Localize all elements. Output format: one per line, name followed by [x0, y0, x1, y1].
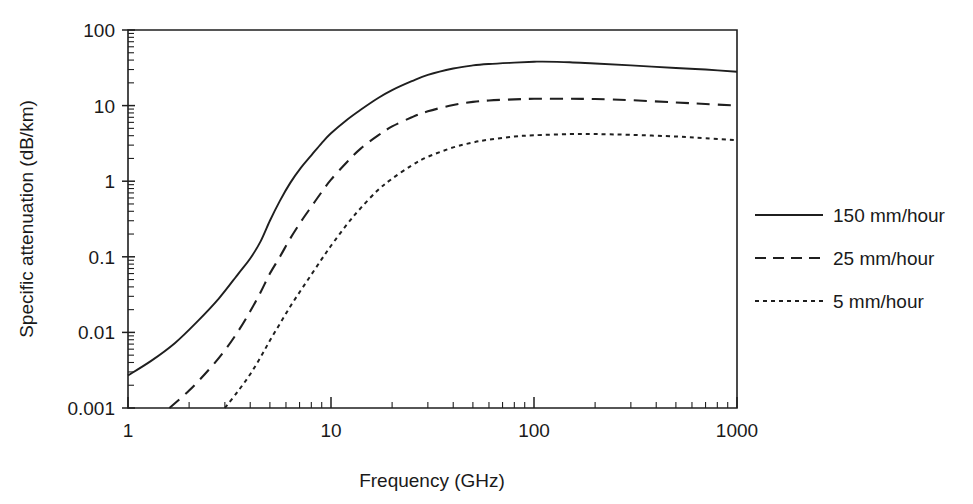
- axis-frame: [128, 30, 737, 408]
- chart-legend: 150 mm/hour25 mm/hour5 mm/hour: [755, 205, 946, 312]
- series-line-solid: [128, 62, 737, 376]
- data-curves: [128, 62, 737, 408]
- y-tick-label: 0.001: [67, 398, 115, 419]
- y-tick-label: 0.01: [78, 322, 115, 343]
- x-tick-label: 1: [123, 420, 134, 441]
- x-axis-title: Frequency (GHz): [359, 470, 505, 491]
- y-axis-title: Specific attenuation (dB/km): [16, 100, 37, 338]
- y-tick-label: 100: [83, 20, 115, 41]
- x-tick-label: 1000: [716, 420, 758, 441]
- y-tick-label: 0.1: [89, 247, 115, 268]
- y-tick-label: 1: [104, 171, 115, 192]
- figure-container: 1101001000 1001010.10.010.001 150 mm/hou…: [0, 0, 973, 504]
- legend-label: 25 mm/hour: [833, 248, 935, 269]
- attenuation-chart: 1101001000 1001010.10.010.001 150 mm/hou…: [0, 0, 973, 504]
- x-tick-labels: 1101001000: [123, 420, 758, 441]
- y-tick-label: 10: [94, 96, 115, 117]
- plot-axes: [128, 30, 737, 408]
- y-tick-labels: 1001010.10.010.001: [67, 20, 115, 419]
- legend-label: 150 mm/hour: [833, 205, 946, 226]
- x-tick-label: 10: [320, 420, 341, 441]
- axis-ticks: [122, 30, 737, 408]
- series-line-dotted: [225, 134, 737, 408]
- legend-label: 5 mm/hour: [833, 291, 924, 312]
- x-tick-label: 100: [518, 420, 550, 441]
